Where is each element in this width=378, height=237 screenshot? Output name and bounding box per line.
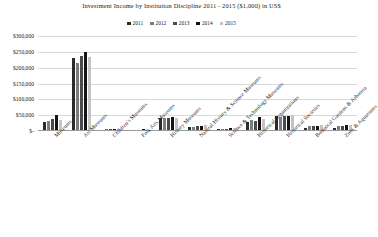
y-axis-tick-label: $- bbox=[29, 128, 34, 134]
legend-swatch-icon bbox=[127, 22, 130, 25]
legend-swatch-icon bbox=[220, 22, 223, 25]
bar-group bbox=[67, 36, 96, 131]
legend-item-2015[interactable]: 2015 bbox=[220, 21, 236, 26]
bar-2012[interactable] bbox=[76, 63, 79, 131]
legend-label: 2013 bbox=[179, 21, 190, 26]
legend-item-2011[interactable]: 2011 bbox=[127, 21, 143, 26]
y-axis-tick-label: $50,000 bbox=[16, 112, 34, 118]
legend-label: 2012 bbox=[156, 21, 167, 26]
legend-label: 2014 bbox=[202, 21, 213, 26]
legend-item-2013[interactable]: 2013 bbox=[173, 21, 189, 26]
bar-2013[interactable] bbox=[283, 116, 286, 131]
y-axis-tick-label: $250,000 bbox=[13, 49, 34, 55]
legend-swatch-icon bbox=[196, 22, 199, 25]
chart-legend: 20112012201320142015 bbox=[0, 21, 363, 26]
legend-swatch-icon bbox=[150, 22, 153, 25]
legend-item-2012[interactable]: 2012 bbox=[150, 21, 166, 26]
chart-title: Investment Income by Institution Discipl… bbox=[0, 2, 363, 9]
bar-2013[interactable] bbox=[80, 56, 83, 131]
y-axis-tick-label: $100,000 bbox=[13, 96, 34, 102]
legend-swatch-icon bbox=[173, 22, 176, 25]
y-axis-tick-label: $200,000 bbox=[13, 65, 34, 71]
legend-item-2014[interactable]: 2014 bbox=[196, 21, 212, 26]
legend-label: 2011 bbox=[133, 21, 144, 26]
bar-2015[interactable] bbox=[88, 57, 91, 131]
y-axis-labels: $300,000$250,000$200,000$150,000$100,000… bbox=[0, 36, 36, 131]
bar-group bbox=[38, 36, 67, 131]
y-axis-tick-label: $300,000 bbox=[13, 33, 34, 39]
legend-label: 2015 bbox=[225, 21, 236, 26]
x-axis-labels: MuseumsArt MuseumsChildren's MuseumsFolk… bbox=[38, 131, 357, 237]
bar-2011[interactable] bbox=[72, 58, 75, 131]
y-axis-tick-label: $150,000 bbox=[13, 81, 34, 87]
bar-2012[interactable] bbox=[163, 118, 166, 131]
bar-2012[interactable] bbox=[279, 117, 282, 131]
bar-2014[interactable] bbox=[84, 52, 87, 131]
